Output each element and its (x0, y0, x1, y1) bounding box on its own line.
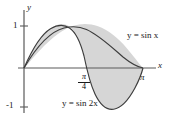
figure-sin-x-sin-2x-area: y x 1 -1 π 4 π y = sin x y = sin 2x (0, 0, 171, 117)
curve-label-sin-2x: y = sin 2x (62, 99, 98, 108)
tick-label-pi-over-4: π 4 (78, 73, 90, 91)
x-axis-label: x (158, 61, 162, 70)
y-axis-label: y (27, 3, 31, 12)
curve-label-sin-x: y = sin x (127, 31, 158, 40)
pi-over-4-numerator: π (78, 73, 90, 81)
pi-over-4-denominator: 4 (78, 83, 90, 91)
tick-label-y-negative-one: -1 (6, 101, 14, 110)
tick-label-pi: π (140, 73, 145, 82)
tick-label-y-one: 1 (13, 21, 18, 30)
